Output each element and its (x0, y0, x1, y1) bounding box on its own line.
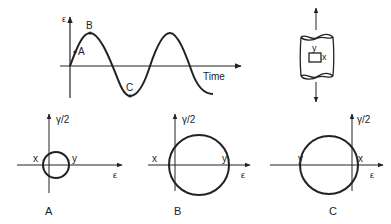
element-square (309, 53, 321, 62)
cylinder-outline (300, 34, 334, 79)
mohr-circle-b: γ/2 ε x y B (148, 114, 250, 217)
mohr-a-left-label: x (33, 153, 38, 164)
element-y-label: y (312, 43, 317, 53)
mohr-a-y-axis-label: γ/2 (56, 114, 70, 125)
mohr-c-right-label: x (358, 153, 363, 164)
strain-diagram: ε Time A B C y x γ/2 ε x y A γ/2 ε x y (0, 0, 391, 224)
time-plot-y-label: ε (62, 14, 66, 24)
mohr-b-y-axis-label: γ/2 (182, 114, 196, 125)
point-a-label: A (78, 46, 85, 57)
mohr-b-left-label: x (152, 153, 157, 164)
mohr-c-caption: C (329, 205, 337, 217)
mohr-c-x-axis-label: ε (370, 170, 374, 180)
mohr-a-x-axis-label: ε (113, 170, 117, 180)
mohr-a-right-label: y (72, 153, 77, 164)
mohr-b-caption: B (174, 205, 181, 217)
time-plot-x-label: Time (203, 71, 225, 82)
time-plot: ε Time A B C (60, 14, 241, 98)
point-c-marker (128, 94, 131, 97)
mohr-c-left-label: y (298, 153, 303, 164)
point-c-label: C (126, 82, 133, 93)
mohr-b-x-axis-label: ε (241, 170, 245, 180)
mohr-b-right-label: y (222, 153, 227, 164)
mohr-circle-a: γ/2 ε x y A (17, 114, 122, 217)
point-b-marker (88, 31, 91, 34)
point-b-label: B (86, 20, 93, 31)
strain-element: y x (300, 8, 334, 102)
mohr-c-y-axis-label: γ/2 (357, 114, 371, 125)
mohr-circle-c: γ/2 ε y x C (270, 114, 383, 217)
mohr-a-caption: A (45, 205, 53, 217)
strain-sine-curve (70, 33, 213, 96)
point-a-marker (73, 50, 76, 53)
element-x-label: x (322, 52, 327, 62)
